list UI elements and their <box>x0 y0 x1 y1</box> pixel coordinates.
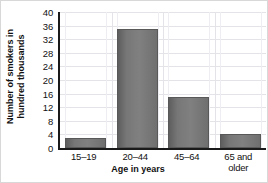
y-tick-label: 12 <box>43 102 53 113</box>
y-tick-label: 8 <box>48 115 53 126</box>
x-tick-label-line1: 20–44 <box>123 151 148 162</box>
y-tick-label: 0 <box>48 143 53 154</box>
plot-area <box>58 12 266 150</box>
y-axis-title-line1: Number of smokers in <box>6 28 16 123</box>
x-tick-label-line2: older <box>213 162 265 173</box>
bars-group <box>60 12 266 148</box>
bar <box>117 29 158 148</box>
y-tick-label: 16 <box>43 88 53 99</box>
bar <box>65 138 106 148</box>
y-tick-label: 40 <box>43 7 53 18</box>
y-axis-title: Number of smokers in hundred thousands <box>1 1 31 151</box>
y-tick-label: 28 <box>43 47 53 58</box>
x-tick-label: 20–44 <box>110 151 162 162</box>
bar-chart-figure: Number of smokers in hundred thousands 0… <box>0 0 268 183</box>
y-tick-label: 32 <box>43 34 53 45</box>
x-tick-label-line1: 65 and <box>224 151 252 162</box>
x-tick-label-line1: 15–19 <box>71 151 96 162</box>
y-tick-label: 20 <box>43 75 53 86</box>
x-tick-label: 65 andolder <box>213 151 265 173</box>
x-axis-title: Age in years <box>58 164 218 174</box>
x-tick-label: 45–64 <box>161 151 213 162</box>
x-tick-label: 15–19 <box>58 151 110 162</box>
y-tick-label: 36 <box>43 20 53 31</box>
bar <box>168 97 209 148</box>
bar <box>220 134 261 148</box>
y-axis-tick-labels: 0481216202428323640 <box>29 11 55 151</box>
x-tick-label-line1: 45–64 <box>174 151 199 162</box>
y-tick-label: 24 <box>43 61 53 72</box>
y-axis-title-line2: hundred thousands <box>16 28 27 123</box>
y-tick-label: 4 <box>48 129 53 140</box>
